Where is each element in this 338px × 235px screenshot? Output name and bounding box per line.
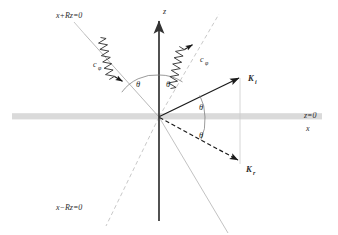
vector-label-ki-base: K <box>247 73 255 83</box>
line-equation-lower-left: x−Rz=0 <box>55 203 82 212</box>
phonon-label-left-base: c <box>93 60 97 69</box>
angle-arc-1 <box>122 75 159 92</box>
ray-lower-left-dashed <box>106 117 159 226</box>
angle-label-2: θ <box>166 79 170 89</box>
phonon-label-right-base: c <box>200 55 204 64</box>
phonon-label-left-sub: φ <box>98 65 102 71</box>
vector-label-ki: K i <box>247 73 257 85</box>
vector-label-kr: K r <box>245 164 256 176</box>
diagram-svg: z z=0 x x+Rz=0 x−Rz=0 c φ c φ K i K r θ … <box>0 0 338 235</box>
x-axis-label: x <box>305 124 310 133</box>
z-axis-label: z <box>162 7 167 16</box>
vector-label-kr-sub: r <box>253 170 256 176</box>
interface-label: z=0 <box>303 111 317 120</box>
phonon-label-left: c φ <box>93 60 102 71</box>
ray-upper-left-ext <box>74 22 85 34</box>
figure-canvas: z z=0 x x+Rz=0 x−Rz=0 c φ c φ K i K r θ … <box>0 0 338 235</box>
phonon-label-right-sub: φ <box>205 60 209 66</box>
phonon-wave-left <box>99 38 123 82</box>
interface-band <box>12 113 322 119</box>
phonon-label-right: c φ <box>200 55 209 66</box>
angle-label-4: θ <box>199 130 203 140</box>
vector-label-ki-sub: i <box>255 79 257 85</box>
angle-label-1: θ <box>136 79 140 89</box>
vector-label-kr-base: K <box>245 164 253 174</box>
line-equation-upper-left: x+Rz=0 <box>55 11 82 20</box>
phonon-wave-right <box>169 45 193 89</box>
angle-label-3: θ <box>199 102 203 112</box>
ray-lower-right <box>159 117 228 233</box>
